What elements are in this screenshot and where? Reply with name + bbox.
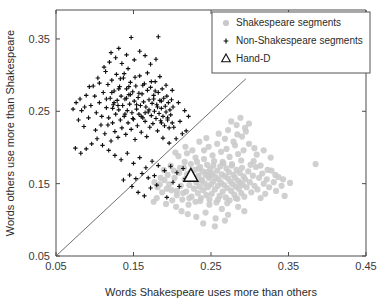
non-shakespeare-segments-points [71, 35, 194, 200]
y-tick-label: 0.25 [29, 105, 50, 117]
chart-legend: Shakespeare segmentsNon-Shakespeare segm… [212, 12, 370, 73]
legend-entry-label: Non-Shakespeare segments [236, 35, 363, 46]
plot-canvas: 0.050.150.250.350.450.050.150.250.35 Sha… [0, 0, 389, 307]
y-axis-label: Words others use more than Shakespeare [4, 30, 16, 236]
scatter-plot-figure: 0.050.150.250.350.450.050.150.250.35 Sha… [0, 0, 389, 307]
y-tick-label: 0.15 [29, 178, 50, 190]
x-tick-label: 0.25 [200, 260, 221, 272]
legend-entry-label: Shakespeare segments [236, 17, 341, 28]
x-axis-label: Words Shakespeare uses more than others [105, 286, 317, 298]
x-tick-label: 0.45 [355, 260, 376, 272]
y-tick-label: 0.05 [29, 250, 50, 262]
legend-circle-icon [223, 20, 229, 26]
x-tick-label: 0.15 [123, 260, 144, 272]
legend-entry-label: Hand-D [236, 53, 270, 64]
x-tick-label: 0.35 [278, 260, 299, 272]
y-tick-label: 0.35 [29, 33, 50, 45]
shakespeare-segments-points [151, 115, 319, 230]
